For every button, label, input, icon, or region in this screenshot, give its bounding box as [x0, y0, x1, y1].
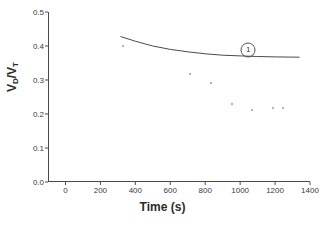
plot-area: 1 — [48, 12, 310, 182]
data-point — [231, 103, 233, 105]
y-axis-title-sub-d: D — [11, 78, 20, 84]
y-axis-title: VD/VT — [5, 34, 19, 120]
x-axis-tick-label: 600 — [164, 186, 177, 195]
y-axis-tick-label: 0.3 — [33, 76, 44, 85]
x-axis-tick-label: 1000 — [231, 186, 249, 195]
chart-figure: 0.00.10.20.30.40.5 VD/VT 1 0200400600800… — [0, 0, 325, 226]
x-axis-tick-labels: 0200400600800100012001400 — [0, 186, 325, 200]
x-axis-tick-label: 1200 — [266, 186, 284, 195]
data-point — [282, 107, 284, 109]
y-axis-tick-label: 0.5 — [33, 8, 44, 17]
y-axis-tick-label: 0.2 — [33, 110, 44, 119]
data-point — [210, 82, 212, 84]
curve-label-annotation: 1 — [241, 43, 256, 58]
data-point — [122, 45, 124, 47]
x-axis-title: Time (s) — [0, 200, 325, 214]
data-point — [251, 109, 253, 111]
x-axis-tick-label: 0 — [63, 186, 67, 195]
y-axis-title-sub-t: T — [11, 62, 20, 67]
y-axis-tick-label: 0.1 — [33, 144, 44, 153]
x-axis-tick-label: 200 — [94, 186, 107, 195]
data-point — [272, 107, 274, 109]
x-axis-tick-label: 400 — [129, 186, 142, 195]
x-axis-tick-label: 1400 — [301, 186, 319, 195]
data-point — [189, 73, 191, 75]
y-axis-tick-label: 0.4 — [33, 42, 44, 51]
x-axis-tick-label: 800 — [199, 186, 212, 195]
